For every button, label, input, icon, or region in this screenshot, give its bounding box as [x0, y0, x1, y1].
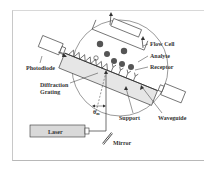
- label-receptor: Receptor: [150, 64, 174, 70]
- waveguide-coupler: [157, 82, 186, 103]
- label-flow-cell: Flow Cell: [150, 41, 175, 47]
- label-waveguide: Waveguide: [158, 115, 187, 121]
- photodiode: [38, 35, 67, 56]
- label-laser: Laser: [48, 129, 63, 135]
- label-mirror: Mirror: [113, 140, 132, 146]
- label-support: Support: [119, 115, 140, 121]
- label-analyte: Analyte: [150, 53, 170, 59]
- label-grating: Grating: [40, 89, 60, 95]
- laser-aperture: [85, 128, 89, 134]
- analyte-particles: [94, 41, 134, 70]
- label-diffraction: Diffraction: [40, 82, 69, 88]
- label-photodiode: Photodiode: [26, 65, 55, 71]
- biosensor-diagram: Flow Cell Analyte Receptor Photodiode Di…: [0, 0, 212, 170]
- label-angle: θm: [93, 109, 100, 116]
